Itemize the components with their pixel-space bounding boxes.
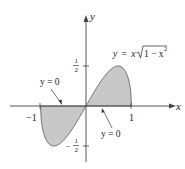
x-tick-label-1: 1: [129, 112, 134, 123]
svg-text:1: 1: [75, 137, 79, 145]
x-axis-label: x: [175, 100, 181, 112]
svg-text:2: 2: [75, 66, 79, 74]
annotation-y0-left: y = 0: [40, 77, 60, 87]
svg-text:2: 2: [75, 146, 79, 154]
curve-label: y = x 1 − x 2: [112, 45, 167, 59]
y-tick-label-half: 1 2: [73, 57, 79, 74]
area-between-curves-diagram: x y −1 1 1 2 − 1 2 y = x 1 − x 2 y = 0 y…: [0, 0, 185, 169]
svg-text:−: −: [66, 142, 71, 151]
shaded-region-right: [86, 66, 132, 106]
shaded-region-left: [41, 106, 87, 146]
y-axis-arrow-icon: [84, 15, 89, 22]
x-tick-label-neg1: −1: [26, 112, 37, 123]
annotation-arrow-right: [103, 110, 112, 128]
svg-text:2: 2: [164, 45, 167, 52]
svg-text:y = x: y = x: [112, 49, 136, 59]
y-tick-label-neg-half: − 1 2: [66, 137, 79, 154]
svg-text:1: 1: [75, 57, 79, 65]
y-axis-label: y: [89, 10, 95, 22]
x-axis-arrow-icon: [169, 104, 176, 109]
svg-text:1 − x: 1 − x: [144, 49, 164, 59]
annotation-y0-right: y = 0: [101, 129, 121, 139]
